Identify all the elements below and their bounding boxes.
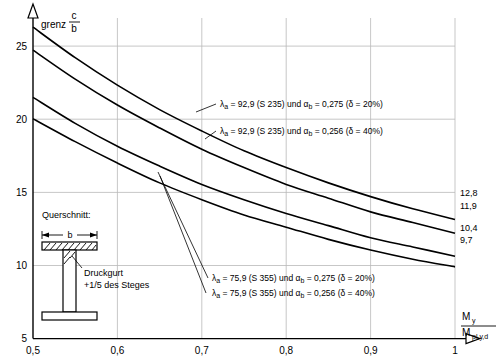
x-axis-title-denominator: M: [462, 327, 470, 338]
ann2-text-a: = 92,9 (S 235) und α: [228, 126, 308, 136]
ann4-text-a: = 75,9 (S 355) und α: [220, 288, 300, 298]
end-label-series-3: 9,7: [460, 235, 473, 245]
y-axis-title-main: grenz: [41, 19, 66, 30]
y-axis-title-denominator: b: [71, 23, 77, 34]
ann2-text-b: = 0,256 (δ = 40%): [312, 126, 383, 136]
svg-text:λa = 92,9 (S 235) und αb = 0,2: λa = 92,9 (S 235) und αb = 0,256 (δ = 40…: [220, 126, 383, 137]
beam-bottom-flange: [42, 312, 97, 320]
y-tick-label-5: 5: [21, 333, 27, 344]
x-axis-title-numerator: M: [462, 311, 470, 322]
y-axis-arrow: [28, 4, 38, 18]
end-label-series-0: 12,8: [460, 188, 478, 198]
cross-section-dim-label: b: [67, 230, 72, 240]
end-label-series-1: 11,9: [460, 201, 477, 211]
ann4-text-b: = 0,256 (δ = 40%): [304, 288, 375, 298]
x-tick-label-05: 0,5: [26, 345, 40, 356]
x-axis-title-denominator-sub: pl,y,d: [472, 333, 488, 341]
x-tick-label-08: 0,8: [279, 345, 293, 356]
ann1-text-a: = 92,9 (S 235) und α: [228, 99, 308, 109]
annotation-1: λa = 92,9 (S 235) und αb = 0,275 (δ = 20…: [220, 99, 383, 110]
beam-web: [63, 250, 76, 312]
ann1-text-b: = 0,275 (δ = 20%): [312, 99, 383, 109]
svg-text:λa = 75,9 (S 355) und αb = 0,2: λa = 75,9 (S 355) und αb = 0,275 (δ = 20…: [212, 273, 375, 284]
annotation-3: λa = 75,9 (S 355) und αb = 0,275 (δ = 20…: [212, 273, 375, 284]
x-tick-label-10: 1: [452, 345, 458, 356]
x-tick-label-06: 0,6: [110, 345, 124, 356]
svg-text:λa = 75,9 (S 355) und αb = 0,2: λa = 75,9 (S 355) und αb = 0,256 (δ = 40…: [212, 288, 375, 299]
cross-section-note-line1: Druckgurt: [84, 268, 124, 278]
chart-figure: 25 20 15 10 5 0,5 0,6 0,7 0,8 0,9 1 gren…: [0, 0, 499, 363]
ann3-text-b: = 0,275 (δ = 20%): [304, 273, 375, 283]
y-axis-title-numerator: c: [72, 10, 77, 21]
annotation-2: λa = 92,9 (S 235) und αb = 0,256 (δ = 40…: [220, 126, 383, 137]
y-tick-label-15: 15: [16, 187, 28, 198]
x-axis-title: M y M pl,y,d: [461, 311, 496, 341]
ann3-text-a: = 75,9 (S 355) und α: [220, 273, 300, 283]
cross-section-caption: Querschnitt:: [42, 210, 91, 220]
cross-section-note-line2: +1/5 des Steges: [84, 280, 150, 290]
x-axis-title-numerator-sub: y: [472, 317, 476, 325]
x-tick-label-09: 0,9: [364, 345, 378, 356]
annotation-4: λa = 75,9 (S 355) und αb = 0,256 (δ = 40…: [212, 288, 375, 299]
y-tick-label-10: 10: [16, 260, 28, 271]
end-label-series-2: 10,4: [460, 223, 478, 233]
svg-text:λa = 92,9 (S 235) und αb = 0,2: λa = 92,9 (S 235) und αb = 0,275 (δ = 20…: [220, 99, 383, 110]
x-tick-label-07: 0,7: [195, 345, 209, 356]
y-tick-label-20: 20: [16, 114, 28, 125]
y-tick-label-25: 25: [16, 41, 28, 52]
